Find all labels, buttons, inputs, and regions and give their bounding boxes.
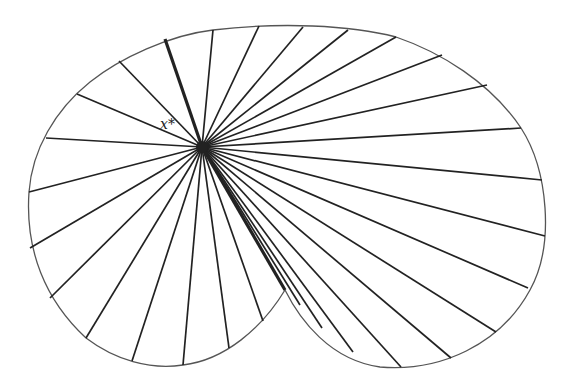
ray xyxy=(202,147,401,367)
ray xyxy=(119,61,202,147)
center-point-label: x* xyxy=(160,116,175,132)
ray xyxy=(46,138,202,147)
ray-group xyxy=(29,26,545,367)
ray xyxy=(202,147,528,288)
diagram-canvas: x* xyxy=(0,0,563,384)
ray xyxy=(183,147,202,365)
ray xyxy=(132,147,202,361)
ray xyxy=(202,147,542,180)
ray xyxy=(86,147,202,338)
region-boundary xyxy=(28,26,545,368)
ray xyxy=(202,30,213,147)
thick-ray xyxy=(202,147,285,290)
ray xyxy=(202,128,521,147)
ray xyxy=(202,147,496,332)
ray xyxy=(77,94,202,147)
ray xyxy=(202,30,348,147)
center-point xyxy=(196,141,208,153)
ray xyxy=(202,37,396,147)
star-shaped-region-figure xyxy=(0,0,563,384)
ray xyxy=(29,147,202,192)
